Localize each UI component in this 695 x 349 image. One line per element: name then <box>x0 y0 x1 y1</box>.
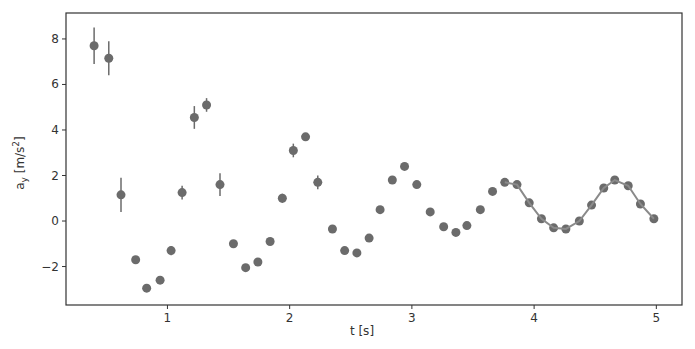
chart-canvas: 12345 −202468 t [s] ay [m/s2] <box>0 0 695 349</box>
data-point <box>104 54 113 63</box>
data-point <box>202 100 211 109</box>
data-point <box>278 194 287 203</box>
data-point <box>313 178 322 187</box>
x-tick-label: 4 <box>530 311 538 325</box>
data-points <box>90 28 659 293</box>
data-point <box>289 146 298 155</box>
x-tick-label: 3 <box>408 311 416 325</box>
data-point <box>117 190 126 199</box>
data-point <box>156 276 165 285</box>
x-tick-label: 1 <box>164 311 172 325</box>
y-tick-label: −2 <box>41 260 59 274</box>
y-tick-label: 6 <box>51 77 59 91</box>
y-axis-ticks: −202468 <box>41 32 66 274</box>
data-point <box>462 221 471 230</box>
data-point <box>253 257 262 266</box>
data-point <box>451 228 460 237</box>
data-point <box>190 113 199 122</box>
data-point <box>488 187 497 196</box>
data-point <box>216 180 225 189</box>
data-point <box>301 132 310 141</box>
plot-frame <box>66 13 682 305</box>
y-tick-label: 8 <box>51 32 59 46</box>
data-point <box>376 205 385 214</box>
data-point <box>426 207 435 216</box>
data-point <box>178 188 187 197</box>
x-axis-label: t [s] <box>350 324 374 338</box>
data-point <box>90 41 99 50</box>
data-point <box>412 180 421 189</box>
data-point <box>476 205 485 214</box>
data-point <box>266 237 275 246</box>
data-point <box>241 263 250 272</box>
data-point <box>352 248 361 257</box>
data-point <box>167 246 176 255</box>
data-point <box>229 239 238 248</box>
data-point <box>388 176 397 185</box>
y-tick-label: 2 <box>51 169 59 183</box>
x-tick-label: 5 <box>653 311 661 325</box>
data-point <box>328 224 337 233</box>
x-axis-ticks: 12345 <box>164 305 661 325</box>
y-axis-label: ay [m/s2] <box>11 136 29 190</box>
y-tick-label: 0 <box>51 214 59 228</box>
data-point <box>365 234 374 243</box>
x-tick-label: 2 <box>286 311 294 325</box>
y-tick-label: 4 <box>51 123 59 137</box>
data-point <box>131 255 140 264</box>
data-point <box>340 246 349 255</box>
data-point <box>400 162 409 171</box>
data-point <box>439 222 448 231</box>
data-point <box>142 284 151 293</box>
